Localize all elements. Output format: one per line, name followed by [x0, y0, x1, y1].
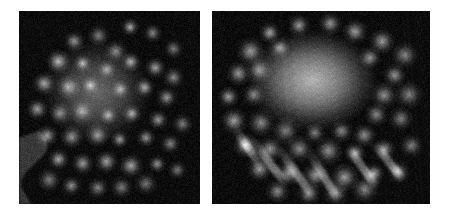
micrograph-panel-right [212, 11, 430, 204]
figure-root [0, 0, 451, 215]
micrograph-panel-left [19, 11, 200, 204]
micrograph-canvas-right [212, 11, 430, 204]
micrograph-canvas-left [19, 11, 200, 204]
